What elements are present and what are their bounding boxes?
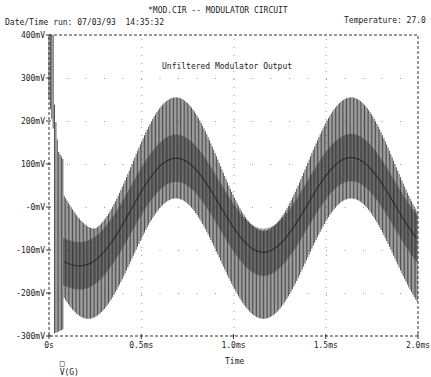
legend: □ V(G) xyxy=(50,350,79,377)
y-tick-label: 300mV xyxy=(21,74,45,83)
y-tick-label: -100mV xyxy=(16,246,45,255)
y-tick-label: 100mV xyxy=(21,160,45,169)
y-tick-label: -200mV xyxy=(16,289,45,298)
x-tick-label: 1.0ms xyxy=(221,341,245,350)
y-tick-label: -300mV xyxy=(16,332,45,341)
y-axis-ticks: 400mV300mV200mV100mV-0mV-100mV-200mV-300… xyxy=(16,31,51,341)
legend-label: V(G) xyxy=(60,368,79,377)
waveform-v-g xyxy=(49,35,417,333)
x-tick-label: 2.0ms xyxy=(406,341,430,350)
y-tick-label: -0mV xyxy=(26,203,45,212)
x-tick-label: 0s xyxy=(44,341,54,350)
y-tick-label: 200mV xyxy=(21,117,45,126)
x-axis-label: Time xyxy=(225,357,244,366)
plot-inner-title: Unfiltered Modulator Output xyxy=(162,62,292,71)
legend-marker-square-icon: □ xyxy=(60,359,65,368)
x-tick-label: 1.5ms xyxy=(314,341,338,350)
y-tick-label: 400mV xyxy=(21,31,45,40)
x-tick-label: 0.5ms xyxy=(129,341,153,350)
